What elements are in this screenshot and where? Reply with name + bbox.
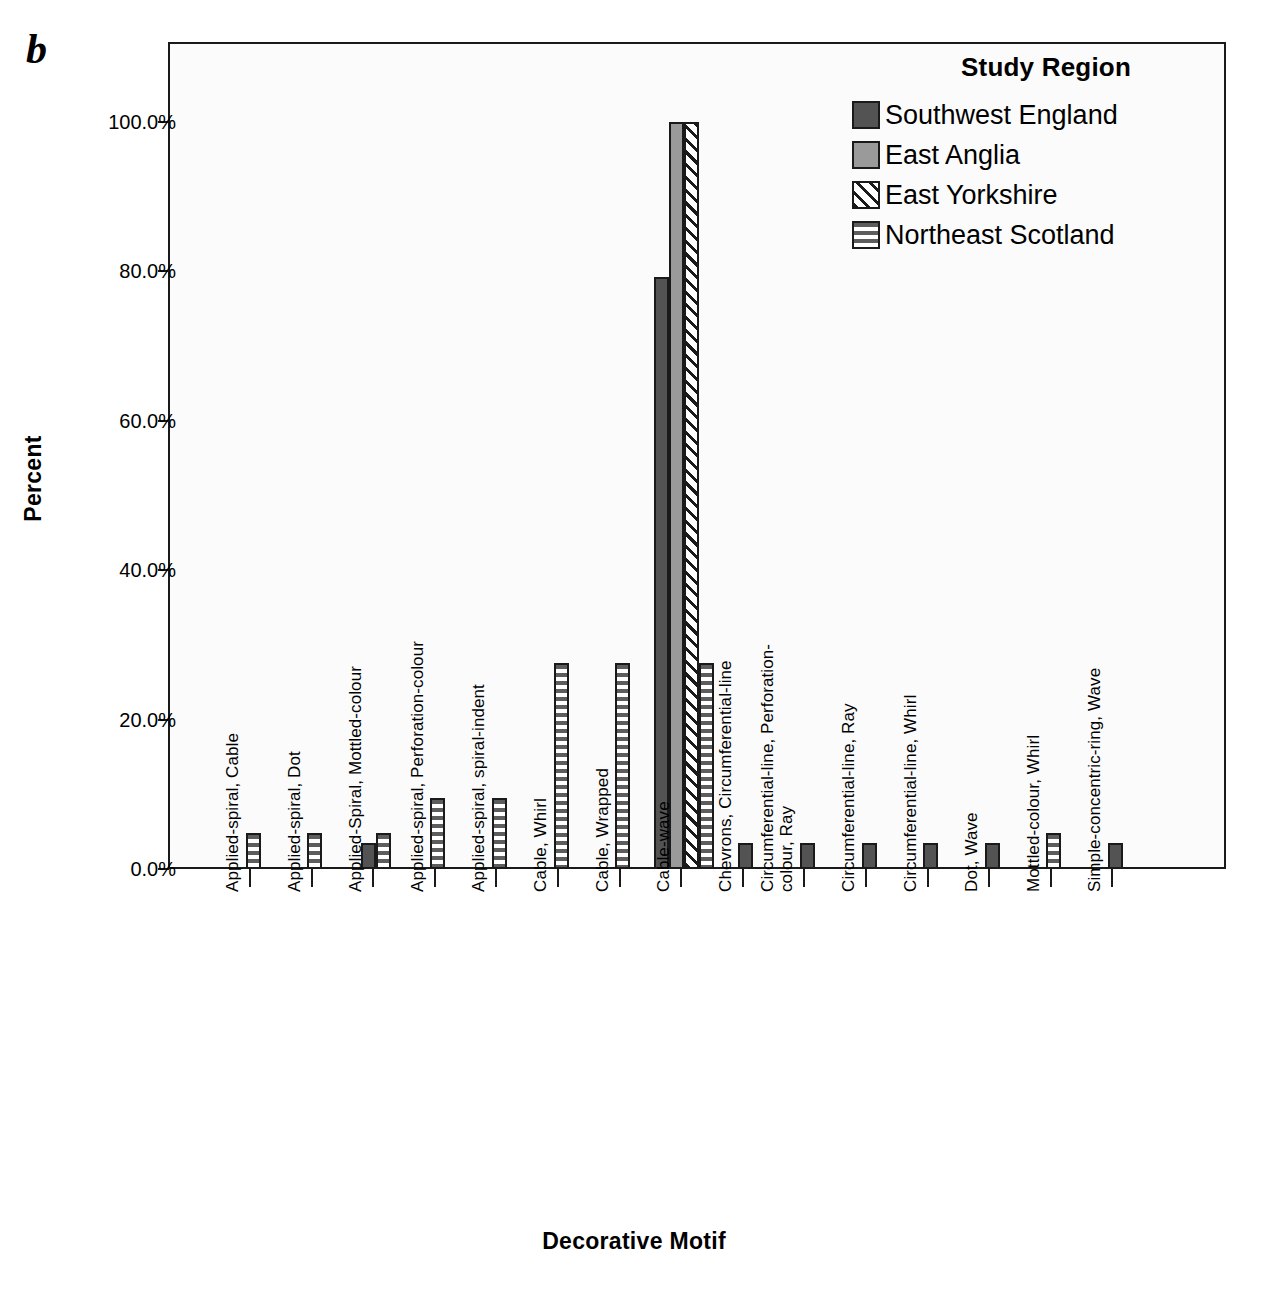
legend-title: Study Region <box>852 52 1212 83</box>
legend-item-label: Northeast Scotland <box>885 222 1115 249</box>
x-axis-category-label: Chevrons, Circumferential-line <box>716 660 735 892</box>
y-axis-tick-label: 100.0% <box>108 111 176 134</box>
legend-swatch-icon <box>852 221 880 249</box>
bar <box>430 798 445 869</box>
bar <box>923 843 938 869</box>
x-axis-category-label: Dot, Wave <box>962 812 981 892</box>
x-axis-category-label: Applied-spiral, Cable <box>223 733 242 892</box>
legend-item-northeast-scotland[interactable]: Northeast Scotland <box>852 215 1212 255</box>
legend-swatch-icon <box>852 181 880 209</box>
y-axis-tick-label: 0.0% <box>130 858 176 881</box>
bar <box>800 843 815 869</box>
legend-item-east-yorkshire[interactable]: East Yorkshire <box>852 175 1212 215</box>
x-axis-tick-mark <box>988 869 990 887</box>
x-axis-tick-mark <box>249 869 251 887</box>
x-axis-category-label: Applied-Spiral, Mottled-colour <box>346 666 365 892</box>
x-axis-tick-mark <box>619 869 621 887</box>
legend-item-label: East Anglia <box>885 142 1020 169</box>
bar <box>376 833 391 869</box>
x-axis-tick-mark <box>372 869 374 887</box>
x-axis-category-label: Cable, Wrapped <box>593 768 612 892</box>
legend-rows: Southwest EnglandEast AngliaEast Yorkshi… <box>852 95 1212 255</box>
bar <box>1108 843 1123 869</box>
legend-swatch-icon <box>852 141 880 169</box>
panel-letter: b <box>26 28 47 70</box>
legend-item-east-anglia[interactable]: East Anglia <box>852 135 1212 175</box>
x-axis-category-label: Mottled-colour, Whirl <box>1024 735 1043 892</box>
bar <box>985 843 1000 869</box>
x-axis-tick-mark <box>803 869 805 887</box>
x-axis-tick-mark <box>1050 869 1052 887</box>
x-axis-tick-mark <box>495 869 497 887</box>
x-axis-tick-mark <box>680 869 682 887</box>
y-axis-tick-label: 20.0% <box>119 708 176 731</box>
x-axis-category-label: Applied-spiral, Perforation-colour <box>408 641 427 892</box>
x-axis-category-label: Simple-concentric-ring, Wave <box>1085 668 1104 892</box>
legend-swatch-icon <box>852 101 880 129</box>
bar <box>669 122 684 869</box>
legend-item-label: East Yorkshire <box>885 182 1058 209</box>
bar <box>615 663 630 869</box>
x-axis-category-label: Applied-spiral, spiral-indent <box>469 684 488 892</box>
x-axis-title: Decorative Motif <box>0 1228 1268 1255</box>
y-axis-tick-label: 40.0% <box>119 559 176 582</box>
bar <box>554 663 569 869</box>
y-axis-tick-label: 80.0% <box>119 260 176 283</box>
x-axis-tick-mark <box>311 869 313 887</box>
bar <box>862 843 877 869</box>
y-axis-tick-label: 60.0% <box>119 409 176 432</box>
bar <box>307 833 322 869</box>
x-axis-category-label: Circumferential-line, Whirl <box>901 695 920 892</box>
bar <box>684 122 699 869</box>
x-axis-category-label: Circumferential-line, Perforation- colou… <box>758 644 796 892</box>
legend-item-southwest-england[interactable]: Southwest England <box>852 95 1212 135</box>
chart-legend: Study Region Southwest EnglandEast Angli… <box>852 52 1212 255</box>
x-axis-category-label: Applied-spiral, Dot <box>285 751 304 892</box>
x-axis-tick-mark <box>1111 869 1113 887</box>
y-axis-title: Percent <box>20 419 47 539</box>
bar <box>738 843 753 869</box>
x-axis-tick-mark <box>434 869 436 887</box>
x-axis-category-label: Cable, Whirl <box>531 798 550 892</box>
legend-item-label: Southwest England <box>885 102 1118 129</box>
bar <box>699 663 714 869</box>
x-axis-category-label: Circumferential-line, Ray <box>839 703 858 892</box>
x-axis-category-label: Cable-wave <box>654 801 673 892</box>
bar <box>1046 833 1061 869</box>
chart-figure: b Percent Study Region Southwest England… <box>0 0 1268 1314</box>
bar <box>492 798 507 869</box>
x-axis-tick-mark <box>865 869 867 887</box>
x-axis-tick-mark <box>557 869 559 887</box>
bar <box>654 277 669 869</box>
bar <box>246 833 261 869</box>
x-axis-tick-mark <box>927 869 929 887</box>
x-axis-tick-mark <box>742 869 744 887</box>
